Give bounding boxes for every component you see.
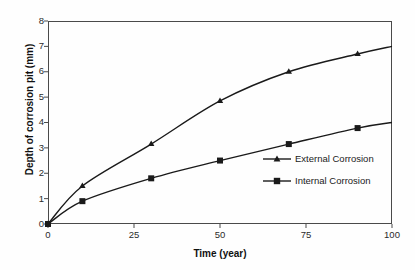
- chart-legend: External Corrosion Internal Corrosion: [262, 148, 390, 192]
- x-tick-label: 50: [215, 230, 226, 240]
- legend-item-internal-corrosion[interactable]: Internal Corrosion: [262, 170, 390, 192]
- x-axis-title: Time (year): [48, 248, 392, 259]
- x-tick-label: 75: [301, 230, 312, 240]
- chart-figure: 8 7 6 5 4 3 2 1 0: [0, 0, 415, 270]
- x-tick-label: 100: [384, 230, 400, 240]
- series-line-external-corrosion: [48, 46, 392, 224]
- legend-label: Internal Corrosion: [292, 176, 371, 186]
- square-marker-icon: [262, 174, 292, 188]
- x-tick-label: 25: [129, 230, 140, 240]
- x-axis-tick-labels: 0 25 50 75 100: [0, 230, 415, 244]
- y-axis-title: Depth of corrosion pit (mm): [24, 15, 35, 205]
- x-tick-label: 0: [45, 230, 50, 240]
- x-axis-ticks: [48, 224, 392, 228]
- chart-canvas: [48, 21, 392, 224]
- y-axis-ticks: [44, 21, 48, 224]
- legend-label: External Corrosion: [292, 154, 374, 164]
- triangle-marker-icon: [262, 152, 292, 166]
- y-tick-label: 0: [30, 219, 44, 229]
- legend-item-external-corrosion[interactable]: External Corrosion: [262, 148, 390, 170]
